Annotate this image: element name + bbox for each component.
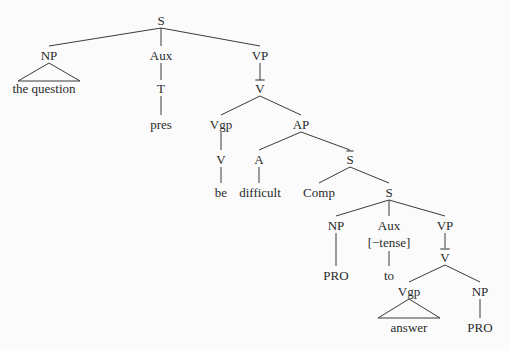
- node-label-comp: Comp: [303, 185, 335, 200]
- tree-branch: [260, 96, 301, 115]
- tree-branch: [259, 132, 301, 150]
- node-label-vbar-main: V: [255, 81, 264, 96]
- node-label-difficult: difficult: [239, 185, 281, 200]
- node-label-to: to: [384, 268, 394, 283]
- node-label-aux-main: Aux: [150, 48, 172, 63]
- tree-branch: [221, 96, 260, 115]
- node-label-vp-emb: VP: [437, 218, 454, 233]
- node-label-vgp-main: Vgp: [210, 117, 232, 132]
- node-label-ap: AP: [293, 117, 310, 132]
- node-label-s-emb: S: [385, 185, 392, 200]
- tree-branch: [350, 167, 389, 183]
- node-label-np-emb: NP: [328, 218, 345, 233]
- node-label-the-question: the question: [12, 81, 75, 96]
- tree-branch: [336, 200, 389, 216]
- node-label-vgp-emb: Vgp: [398, 284, 420, 299]
- node-label-np-obj: NP: [472, 284, 489, 299]
- node-label-s-root: S: [157, 13, 164, 28]
- tree-branch: [319, 167, 350, 183]
- constituent-triangle: [378, 299, 440, 318]
- node-label-pres: pres: [150, 117, 172, 132]
- tree-branch: [161, 28, 260, 46]
- tree-branch: [445, 265, 480, 282]
- node-label-v-be: V: [216, 152, 225, 167]
- node-label-t-node: T: [157, 81, 165, 96]
- tree-branch: [389, 200, 445, 216]
- syntax-tree-diagram: SNPAuxVPthe questionTVpresVgpAPVASbediff…: [0, 0, 509, 351]
- node-label-a-node: A: [254, 152, 263, 167]
- tree-branch: [409, 265, 445, 282]
- node-label-aux-emb: Aux: [378, 218, 400, 233]
- node-label-np-subj: NP: [41, 48, 58, 63]
- node-label-sbar: S: [346, 152, 353, 167]
- node-label-pro-obj: PRO: [467, 320, 492, 335]
- node-label-vbar-emb: V: [440, 250, 449, 265]
- tree-branch: [49, 28, 161, 46]
- node-label-tense-feat: [−tense]: [368, 235, 411, 250]
- node-label-be: be: [215, 185, 227, 200]
- node-label-answer: answer: [391, 320, 428, 335]
- constituent-triangle: [18, 63, 80, 81]
- node-label-vp-main: VP: [252, 48, 269, 63]
- node-label-pro-subj: PRO: [323, 268, 348, 283]
- tree-branch: [301, 132, 350, 150]
